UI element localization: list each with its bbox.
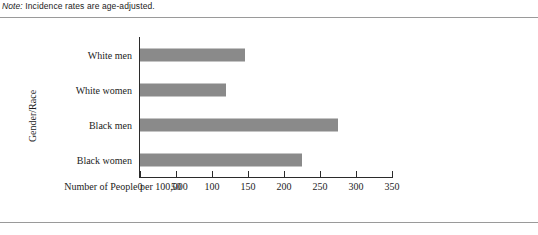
x-axis-tick <box>212 171 213 178</box>
bar-row: White men <box>140 37 392 72</box>
bar-row: Black men <box>140 107 392 142</box>
bar <box>140 83 226 96</box>
x-axis-tick <box>248 171 249 178</box>
y-axis-title: Gender/Race <box>27 90 38 142</box>
bar-row: White women <box>140 72 392 107</box>
x-axis-tick <box>392 171 393 178</box>
divider-bottom <box>0 222 538 223</box>
chart-figure: Note: Incidence rates are age-adjusted. … <box>0 0 538 235</box>
figure-note-text: Incidence rates are age-adjusted. <box>23 1 155 11</box>
category-label: White women <box>76 84 132 95</box>
x-axis-tick-label: 300 <box>349 181 364 192</box>
x-axis-tick <box>356 171 357 178</box>
x-axis-tick-label: 250 <box>313 181 328 192</box>
x-axis-tick <box>176 171 177 178</box>
bar <box>140 118 338 131</box>
plot-area: White menWhite womenBlack menBlack women… <box>140 37 392 177</box>
category-label: White men <box>88 49 132 60</box>
figure-note-lead: Note: <box>2 1 23 11</box>
category-label: Black men <box>89 119 132 130</box>
x-axis-tick <box>320 171 321 178</box>
bar <box>140 153 302 166</box>
x-axis-title: Number of People per 100,000 <box>64 181 188 192</box>
figure-note: Note: Incidence rates are age-adjusted. <box>2 1 155 11</box>
bar-row: Black women <box>140 142 392 177</box>
category-label: Black women <box>77 154 132 165</box>
x-axis-tick-label: 200 <box>277 181 292 192</box>
x-axis-tick-label: 100 <box>205 181 220 192</box>
x-axis-tick <box>140 171 141 178</box>
x-axis-tick-label: 150 <box>241 181 256 192</box>
bar-chart: Gender/Race White menWhite womenBlack me… <box>0 18 538 222</box>
x-axis-tick-label: 350 <box>385 181 400 192</box>
bar <box>140 48 245 61</box>
x-axis-tick <box>284 171 285 178</box>
